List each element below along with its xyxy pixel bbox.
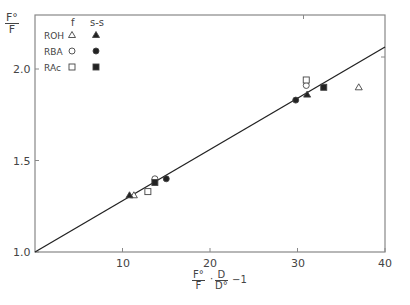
data-points xyxy=(126,77,362,198)
legend-triangle-filled-icon xyxy=(93,32,100,38)
legend-row-rac: RAc xyxy=(44,63,61,73)
circle-filled-marker xyxy=(293,97,299,103)
legend-header-ss: s-s xyxy=(90,17,104,28)
square-open-marker xyxy=(145,189,151,195)
legend-row-roh: ROH xyxy=(44,31,64,41)
fit-line xyxy=(35,47,385,252)
legend-markers xyxy=(69,32,100,71)
legend-triangle-open-icon xyxy=(69,32,76,38)
xtick-10: 10 xyxy=(116,257,130,270)
ytick-2.0: 2.0 xyxy=(13,63,31,76)
x-label-d-fraction: D D° xyxy=(215,270,228,291)
legend-header-f: f xyxy=(71,17,75,28)
plot-frame xyxy=(35,15,385,252)
x-label-dot: · xyxy=(210,273,213,284)
triangle-open-marker xyxy=(355,84,362,90)
circle-filled-marker xyxy=(163,176,169,182)
x-label-f-fraction: F° F xyxy=(192,270,205,291)
square-open-marker xyxy=(303,77,309,83)
legend-square-open-icon xyxy=(69,64,75,70)
y-label-denominator: F xyxy=(9,23,15,36)
axis-ticks xyxy=(35,15,385,252)
legend-circle-filled-icon xyxy=(93,48,99,54)
x-label-suffix: −1 xyxy=(232,274,247,285)
xtick-40: 40 xyxy=(378,257,392,270)
x-label-d-denominator: D° xyxy=(215,280,228,291)
ytick-1.0: 1.0 xyxy=(13,246,31,259)
y-axis-label: F° F xyxy=(5,12,19,35)
xtick-20: 20 xyxy=(203,257,217,270)
legend-circle-open-icon xyxy=(69,48,75,54)
x-label-f-denominator: F xyxy=(196,280,202,291)
square-filled-marker xyxy=(321,84,327,90)
legend-row-rba: RBA xyxy=(44,47,63,57)
legend-square-filled-icon xyxy=(93,64,99,70)
ytick-1.5: 1.5 xyxy=(13,155,31,168)
xtick-30: 30 xyxy=(291,257,305,270)
square-filled-marker xyxy=(152,179,158,185)
